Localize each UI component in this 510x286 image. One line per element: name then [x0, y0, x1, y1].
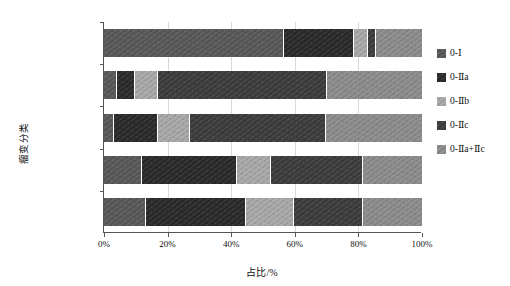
- bar-segment: [142, 156, 237, 184]
- legend-swatch-icon: [437, 97, 446, 106]
- legend-label: 0-Ⅱb: [450, 97, 469, 107]
- bar-row: [104, 71, 422, 99]
- bar-segment: [146, 198, 246, 226]
- bar-segment: [104, 198, 146, 226]
- legend-item[interactable]: 0-Ⅱc: [437, 120, 510, 131]
- bar-row: [104, 114, 422, 142]
- bar-row: [104, 29, 422, 57]
- y-axis-tick: [100, 149, 104, 150]
- bar-segment: [237, 156, 271, 184]
- x-axis-tick-label: 0%: [98, 239, 110, 249]
- bar-segment: [158, 71, 327, 99]
- bar-segment: [376, 29, 422, 57]
- legend-item[interactable]: 0-Ⅰ: [437, 48, 510, 59]
- bar-segment: [104, 71, 117, 99]
- legend-label: 0-Ⅱa: [450, 73, 469, 83]
- bar-row: [104, 156, 422, 184]
- y-axis-tick: [100, 22, 104, 23]
- x-axis-tick-label: 40%: [223, 239, 240, 249]
- legend: 0-Ⅰ0-Ⅱa0-Ⅱb0-Ⅱc0-Ⅱa+Ⅱc: [437, 48, 510, 168]
- bar-segment: [294, 198, 364, 226]
- bar-segment: [158, 114, 190, 142]
- bar-segment: [271, 156, 364, 184]
- x-axis-tick-label: 60%: [287, 239, 304, 249]
- legend-label: 0-Ⅰ: [450, 49, 462, 59]
- x-axis-tick: [422, 233, 423, 237]
- legend-label: 0-Ⅱc: [450, 121, 469, 131]
- legend-label: 0-Ⅱa+Ⅱc: [450, 145, 485, 155]
- bar-segment: [246, 198, 293, 226]
- bar-segment: [104, 114, 114, 142]
- bar-segment: [326, 114, 422, 142]
- bar-segment: [190, 114, 326, 142]
- bar-segment: [117, 71, 135, 99]
- bar-segment: [114, 114, 158, 142]
- x-axis-tick-label: 20%: [159, 239, 176, 249]
- bar-segment: [135, 71, 158, 99]
- x-axis-tick: [168, 233, 169, 237]
- x-axis-title: 占比/%: [103, 264, 421, 279]
- y-axis-tick: [100, 64, 104, 65]
- bar-segment: [354, 29, 368, 57]
- legend-item[interactable]: 0-Ⅱb: [437, 96, 510, 107]
- y-axis-tick: [100, 191, 104, 192]
- bar-segment: [327, 71, 422, 99]
- legend-swatch-icon: [437, 73, 446, 82]
- bar-segment: [284, 29, 354, 57]
- x-axis-tick: [104, 233, 105, 237]
- x-axis-tick: [295, 233, 296, 237]
- legend-item[interactable]: 0-Ⅱa+Ⅱc: [437, 144, 510, 155]
- bar-segment: [104, 156, 142, 184]
- legend-item[interactable]: 0-Ⅱa: [437, 72, 510, 83]
- legend-swatch-icon: [437, 121, 446, 130]
- x-axis-tick-label: 100%: [412, 239, 433, 249]
- plot-area: 0%20%40%60%80%100%其他黏膜下癌黏膜癌高级别瘤变低级别瘤变/腺瘤: [103, 22, 421, 233]
- stacked-bar-chart: 瘤变分类 0%20%40%60%80%100%其他黏膜下癌黏膜癌高级别瘤变低级别…: [0, 0, 510, 286]
- y-axis-tick: [100, 106, 104, 107]
- bar-segment: [363, 198, 422, 226]
- bar-row: [104, 198, 422, 226]
- bar-segment: [104, 29, 284, 57]
- legend-swatch-icon: [437, 145, 446, 154]
- x-axis-tick: [231, 233, 232, 237]
- legend-swatch-icon: [437, 49, 446, 58]
- y-axis-title: 瘤变分类: [16, 122, 30, 164]
- bar-segment: [368, 29, 376, 57]
- bar-segment: [363, 156, 422, 184]
- x-axis-tick-label: 80%: [350, 239, 367, 249]
- x-axis-tick: [358, 233, 359, 237]
